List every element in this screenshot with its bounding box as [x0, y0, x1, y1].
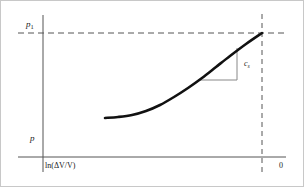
- x-axis-label: ln(ΔV/V): [45, 162, 75, 170]
- slope-subscript: s: [248, 63, 250, 69]
- pressure-axis-label: p: [30, 134, 35, 143]
- slope-label: cs: [244, 60, 250, 69]
- figure-container: p1 p ln(ΔV/V) 0 cs: [0, 0, 304, 187]
- origin-label: 0: [279, 162, 283, 170]
- plot-canvas: [0, 0, 304, 187]
- peak-pressure-subscript: 1: [31, 23, 34, 30]
- peak-pressure-label: p1: [26, 20, 34, 30]
- pressure-curve: [105, 33, 262, 118]
